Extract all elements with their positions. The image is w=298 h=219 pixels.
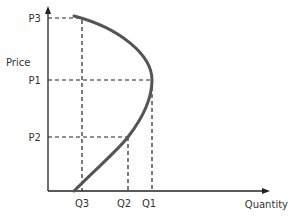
x-axis-label: Quantity bbox=[245, 199, 288, 210]
p3-label: P3 bbox=[29, 13, 41, 24]
chart: P3 Price P1 P2 Q3 Q2 Q1 Quantity bbox=[0, 0, 298, 219]
supply-curve bbox=[74, 16, 152, 191]
y-axis-arrow-icon bbox=[45, 6, 51, 14]
p2-label: P2 bbox=[29, 132, 41, 143]
x-axis-arrow-icon bbox=[262, 188, 270, 194]
q1-label: Q1 bbox=[142, 198, 156, 209]
q3-label: Q3 bbox=[75, 198, 89, 209]
p1-label: P1 bbox=[29, 75, 41, 86]
q2-label: Q2 bbox=[117, 198, 131, 209]
y-axis-label: Price bbox=[6, 57, 30, 68]
